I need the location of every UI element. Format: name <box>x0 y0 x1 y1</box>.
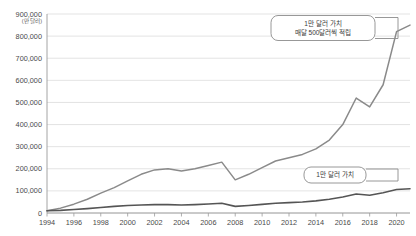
y-axis-tick-label: 0 <box>38 209 42 218</box>
x-axis-tick-label: 2014 <box>308 218 324 227</box>
y-axis-tick-label: 800,000 <box>16 32 42 41</box>
chart-canvas: 0100,000200,000300,000400,000500,000600,… <box>0 0 416 236</box>
x-axis-tick-label: 2004 <box>173 218 189 227</box>
x-axis-tick-label: 1996 <box>66 218 82 227</box>
x-axis-tick-label: 2006 <box>200 218 216 227</box>
x-axis-tick-label: 2008 <box>227 218 243 227</box>
x-axis-tick-label: 2016 <box>335 218 351 227</box>
callout-top-text: 매달 500달러씩 적립 <box>295 28 352 37</box>
callout-top-text: 1만 달러 가치 <box>304 19 341 28</box>
y-axis-unit-label: (만 달러) <box>22 17 42 25</box>
y-axis-tick-label: 400,000 <box>16 120 42 129</box>
y-axis-tick-label: 200,000 <box>16 164 42 173</box>
y-axis-tick-label: 300,000 <box>16 142 42 151</box>
y-axis-tick-label: 700,000 <box>16 54 42 63</box>
x-axis-tick-label: 2018 <box>362 218 378 227</box>
line-chart: 0100,000200,000300,000400,000500,000600,… <box>0 0 416 236</box>
y-axis-tick-label: 600,000 <box>16 76 42 85</box>
x-axis-tick-label: 2020 <box>388 218 404 227</box>
x-axis-tick-label: 2010 <box>254 218 270 227</box>
x-axis-tick-label: 2012 <box>281 218 297 227</box>
y-axis-tick-label: 100,000 <box>16 186 42 195</box>
callout-bottom-text: 1만 달러 가치 <box>316 170 353 179</box>
x-axis-tick-label: 2000 <box>120 218 136 227</box>
x-axis-tick-label: 1994 <box>39 218 55 227</box>
x-axis-tick-label: 1998 <box>93 218 109 227</box>
y-axis-tick-label: 500,000 <box>16 98 42 107</box>
x-axis-tick-label: 2002 <box>146 218 162 227</box>
